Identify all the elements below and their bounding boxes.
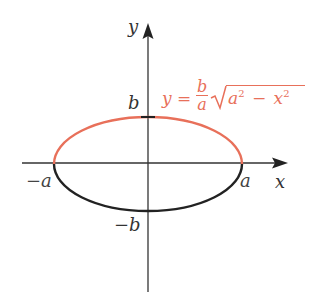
tick-label-pos-b: b [128,92,140,113]
fraction-denominator: a [196,96,208,114]
fraction-numerator: b [196,78,208,95]
x-axis-label: x [275,171,285,192]
radicand-a: a [228,88,238,108]
tick-label-neg-b: −b [114,214,141,235]
tick-label-neg-a: −a [26,170,52,191]
y-axis-label: y [128,16,138,37]
radicand-x: x [274,88,284,108]
sqrt-overline [226,85,305,86]
sqrt-sign-icon [210,84,228,110]
exponent-x: 2 [283,88,289,99]
tick-label-pos-a: a [240,170,251,191]
exponent-a: 2 [238,88,244,99]
radicand: a2 − x2 [228,88,290,108]
radicand-minus: − [252,88,266,108]
equation-lhs: y = [162,88,191,108]
equation-fraction: b a [196,78,208,114]
ellipse-diagram [0,0,321,306]
